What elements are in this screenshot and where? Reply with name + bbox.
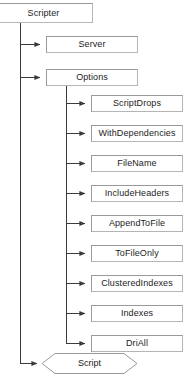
node-withdependencies-label: WithDependencies bbox=[98, 129, 175, 138]
node-indexes[interactable]: Indexes bbox=[91, 305, 183, 322]
node-filename-label: FileName bbox=[117, 159, 156, 168]
node-scripter-label: Scripter bbox=[28, 8, 60, 17]
scripter-object-diagram: Scripter Server Options ScriptDrops With… bbox=[0, 0, 185, 375]
node-clusteredindexes-label: ClusteredIndexes bbox=[101, 279, 173, 288]
node-options-label: Options bbox=[76, 73, 108, 82]
node-filename[interactable]: FileName bbox=[91, 155, 183, 172]
node-scriptdrops-label: ScriptDrops bbox=[113, 99, 161, 108]
node-appendtofile-label: AppendToFile bbox=[109, 219, 165, 228]
node-indexes-label: Indexes bbox=[121, 309, 153, 318]
node-driall-label: DriAll bbox=[126, 339, 148, 348]
node-includeheaders-label: IncludeHeaders bbox=[105, 189, 169, 198]
node-options[interactable]: Options bbox=[46, 69, 138, 86]
node-tofileonly[interactable]: ToFileOnly bbox=[91, 245, 183, 262]
script-hexagon-shape bbox=[42, 354, 137, 374]
node-server-label: Server bbox=[78, 40, 105, 49]
node-driall[interactable]: DriAll bbox=[91, 335, 183, 352]
node-appendtofile[interactable]: AppendToFile bbox=[91, 215, 183, 232]
node-includeheaders[interactable]: IncludeHeaders bbox=[91, 185, 183, 202]
node-clusteredindexes[interactable]: ClusteredIndexes bbox=[91, 275, 183, 292]
node-scripter[interactable]: Scripter bbox=[0, 3, 93, 23]
node-server[interactable]: Server bbox=[46, 36, 138, 53]
node-scriptdrops[interactable]: ScriptDrops bbox=[91, 95, 183, 112]
node-tofileonly-label: ToFileOnly bbox=[115, 249, 159, 258]
node-withdependencies[interactable]: WithDependencies bbox=[91, 125, 183, 142]
